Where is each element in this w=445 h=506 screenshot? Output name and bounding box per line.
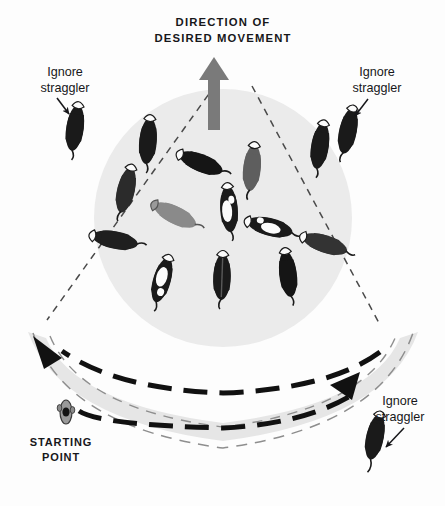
straggler-right-line-2: straggler [353, 81, 402, 95]
diagram-canvas: DIRECTION OF DESIRED MOVEMENT STARTING P… [0, 0, 445, 506]
cattle-handling-diagram: DIRECTION OF DESIRED MOVEMENT STARTING P… [0, 0, 445, 506]
starting-point-line-2: POINT [42, 451, 80, 463]
straggler-left-line-1: Ignore [47, 65, 83, 79]
straggler-bottom-line-2: straggler [376, 410, 425, 424]
straggler-left-line-2: straggler [41, 81, 90, 95]
title-line-2: DESIRED MOVEMENT [154, 32, 291, 44]
straggler-right-line-1: Ignore [359, 65, 395, 79]
starting-point-line-1: STARTING [30, 436, 93, 448]
straggler-bottom-line-1: Ignore [382, 394, 418, 408]
title-line-1: DIRECTION OF [176, 16, 271, 28]
